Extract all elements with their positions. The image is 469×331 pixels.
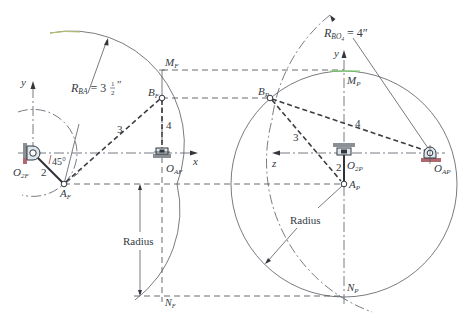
front-angle-label: 45°: [52, 156, 66, 167]
front-rba-frac-num: 1: [111, 80, 115, 88]
front-rba-unit: ″: [117, 78, 122, 90]
front-af-pin: [61, 181, 67, 187]
profile-rbo4-label: RBO4 = 4″: [323, 26, 368, 42]
front-radius-dim-label: Radius: [123, 235, 154, 247]
profile-radius-leader-lower: [267, 228, 297, 262]
front-y-label: y: [20, 76, 26, 88]
front-x-label: x: [192, 155, 198, 167]
profile-oap-label: OAP: [434, 162, 451, 176]
front-slider-oaf: [153, 148, 171, 158]
front-rba-frac-den: 2: [111, 89, 115, 97]
front-rba-label: RBA = 3: [70, 81, 106, 96]
front-link2-label: 2: [41, 166, 47, 178]
profile-bp-label: BP: [258, 85, 270, 99]
profile-z-label: z: [271, 157, 277, 169]
front-rba-leader: [64, 124, 79, 184]
front-link4-label: 4: [166, 119, 172, 131]
front-o2f-pin: [30, 150, 36, 156]
linkage-diagram: y x O2F 2 45° AF 3 4 BF MF OAF NF RBA = …: [0, 0, 469, 331]
front-arc-rba: [50, 31, 184, 300]
front-af-label: AF: [59, 187, 72, 201]
front-rba-arrowhead: [104, 38, 109, 46]
profile-view: y z MP BP 4 3 2 O2P AP OAP NP RBO4 = 4″ …: [231, 15, 457, 312]
profile-link3-label: 3: [293, 131, 299, 143]
profile-mp-label: MP: [346, 74, 361, 88]
front-link-3: [66, 99, 160, 182]
profile-link2-label: 2: [336, 161, 342, 173]
front-arc-green-tint: [50, 31, 80, 33]
front-y-arrow: [31, 81, 36, 89]
profile-rbo4-arrowhead: [330, 15, 336, 22]
profile-radius-leader: [318, 186, 342, 208]
front-angle-arrow: [49, 155, 51, 164]
front-nf-label: NF: [164, 297, 177, 309]
front-bf-label: BF: [148, 86, 160, 100]
front-radius-arrow-top: [138, 184, 142, 190]
profile-link4-label: 4: [355, 117, 361, 129]
front-view: y x O2F 2 45° AF 3 4 BF MF OAF NF RBA = …: [13, 31, 344, 309]
front-aux-dash: [66, 170, 82, 183]
front-link3-label: 3: [117, 123, 123, 135]
front-oaf-label: OAF: [166, 162, 183, 176]
profile-o2p-label: O2P: [347, 159, 363, 173]
profile-z-arrow: [272, 151, 280, 156]
front-ground-wall-red: [23, 158, 27, 164]
profile-ap-label: AP: [348, 178, 361, 192]
front-o2f-label: O2F: [13, 166, 29, 180]
profile-rbo4-leader: [353, 38, 430, 151]
profile-link-3: [272, 100, 341, 181]
profile-y-arrow: [342, 50, 347, 58]
profile-y-label: y: [333, 47, 339, 59]
profile-arc-rbo4: [267, 15, 372, 312]
profile-np-label: NP: [346, 281, 359, 295]
front-bf-pin: [159, 95, 165, 101]
profile-radius-dim-label: Radius: [290, 214, 321, 226]
profile-ap-pin: [341, 181, 347, 187]
front-mf-label: MF: [164, 56, 179, 70]
